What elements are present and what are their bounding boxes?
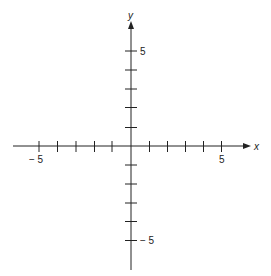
x-tick-label-pos5: 5 bbox=[219, 154, 225, 165]
x-axis-arrow-icon bbox=[243, 143, 251, 149]
coordinate-plane-svg: y x − 5 5 5 − 5 bbox=[0, 0, 271, 276]
y-axis-arrow-icon bbox=[128, 21, 134, 29]
y-tick-label-neg5: − 5 bbox=[140, 235, 155, 246]
coordinate-plane: y x − 5 5 5 − 5 bbox=[0, 0, 271, 276]
y-axis-label: y bbox=[127, 10, 134, 21]
y-tick-label-pos5: 5 bbox=[140, 46, 146, 57]
x-axis-label: x bbox=[253, 141, 260, 152]
x-tick-label-neg5: − 5 bbox=[29, 154, 44, 165]
